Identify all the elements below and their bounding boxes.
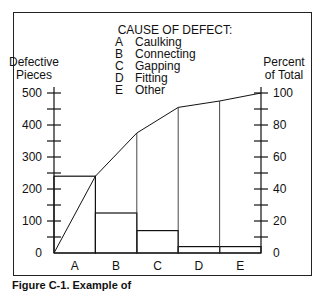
y-tick-label-left: 0 <box>35 246 42 260</box>
y-tick-label-right: 60 <box>273 150 287 164</box>
figure-caption: Figure C-1. Example of <box>12 279 131 291</box>
x-tick-label: B <box>112 259 120 273</box>
y-tick-label-left: 300 <box>22 150 42 164</box>
legend-key: E <box>115 83 123 97</box>
y-axis-right-label-line1: Percent <box>263 55 305 69</box>
x-tick-label: A <box>71 259 79 273</box>
y-tick-label-right: 80 <box>273 118 287 132</box>
cumulative-percent-line <box>54 93 261 253</box>
y-tick-label-left: 500 <box>22 86 42 100</box>
bar-e <box>220 247 261 253</box>
y-axis-right-label-line2: of Total <box>265 68 303 82</box>
y-tick-label-left: 100 <box>22 214 42 228</box>
y-tick-label-right: 40 <box>273 182 287 196</box>
y-tick-label-left: 200 <box>22 182 42 196</box>
bar-b <box>95 213 136 253</box>
y-tick-label-right: 0 <box>273 246 280 260</box>
y-axis-left-label-line2: Pieces <box>16 68 52 82</box>
x-tick-label: D <box>195 259 204 273</box>
y-tick-label-right: 20 <box>273 214 287 228</box>
y-tick-label-left: 400 <box>22 118 42 132</box>
legend-label: Other <box>135 83 165 97</box>
x-tick-label: C <box>153 259 162 273</box>
y-tick-label-right: 100 <box>273 86 293 100</box>
bar-c <box>137 231 178 253</box>
y-axis-left-label-line1: Defective <box>9 55 59 69</box>
x-tick-label: E <box>236 259 244 273</box>
bar-d <box>178 247 219 253</box>
